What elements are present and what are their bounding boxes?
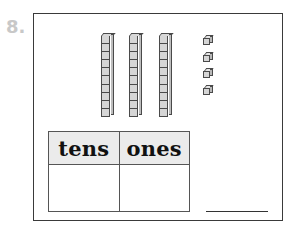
- ones-header: ones: [119, 132, 190, 165]
- table-header-row: tens ones: [49, 132, 190, 165]
- base-ten-rod-icon: [159, 36, 168, 117]
- answer-line[interactable]: [206, 211, 268, 212]
- tens-header: tens: [49, 132, 120, 165]
- unit-cube-icon: [203, 70, 211, 78]
- table-answer-row: [49, 165, 190, 212]
- place-value-table: tens ones: [48, 131, 190, 212]
- unit-cube-icon: [203, 87, 211, 95]
- base-ten-rod-icon: [101, 36, 110, 117]
- unit-cube-icon: [203, 54, 211, 62]
- tens-answer-cell[interactable]: [49, 165, 120, 212]
- base-ten-rod-icon: [129, 36, 138, 117]
- ones-answer-cell[interactable]: [119, 165, 190, 212]
- problem-number: 8.: [6, 16, 25, 37]
- unit-cube-icon: [203, 37, 211, 45]
